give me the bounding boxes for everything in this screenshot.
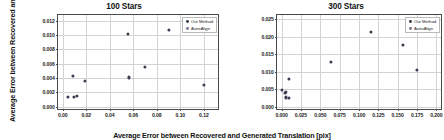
x-tick-label: 0.04 [105, 112, 115, 118]
data-point [330, 61, 333, 64]
data-point [285, 90, 288, 93]
y-gridline [58, 49, 218, 50]
y-tick-label: 0.015 [262, 51, 274, 57]
x-tick-label: 0.10 [176, 112, 186, 118]
y-tick-label: 0.020 [262, 34, 274, 40]
x-gridline [359, 15, 360, 109]
y-tick-label: 0.012 [43, 18, 55, 24]
x-gridline [320, 15, 321, 109]
x-gridline [340, 15, 341, 109]
legend-item[interactable]: Our Method [186, 19, 213, 24]
y-gridline [58, 64, 218, 65]
y-tick-label: 0.010 [43, 32, 55, 38]
legend-marker-icon [186, 27, 189, 30]
chart-title: 300 Stars [248, 2, 444, 11]
x-gridline [157, 15, 158, 109]
x-gridline [86, 15, 87, 109]
x-tick-label: 0.00 [58, 112, 68, 118]
data-point [369, 31, 372, 34]
y-tick [56, 64, 58, 65]
data-point [280, 88, 283, 91]
x-tick-label: 0.025 [295, 112, 307, 118]
legend-marker-icon [409, 27, 412, 30]
x-tick-label: 0.075 [334, 112, 346, 118]
y-tick-label: 0.002 [43, 89, 55, 95]
y-tick [56, 49, 58, 50]
chart-legend: Our MethodAstroAlign [405, 17, 439, 34]
chart-panel-100-stars: 100 Stars 0.0000.0020.0040.0060.0080.010… [26, 0, 222, 128]
y-tick-label: 0.025 [262, 16, 274, 22]
y-tick [275, 54, 277, 55]
x-tick-label: 0.02 [81, 112, 91, 118]
y-tick-label: 0.004 [43, 75, 55, 81]
x-gridline [63, 15, 64, 109]
y-axis-label-container: Average Error between Recovered and Gene… [0, 0, 26, 125]
y-tick [275, 72, 277, 73]
y-tick-label: 0.000 [43, 104, 55, 110]
x-tick-label: 0.150 [392, 112, 404, 118]
plot-area: 0.0000.0020.0040.0060.0080.0100.0120.000… [57, 14, 219, 110]
plot-area: 0.0000.0050.0100.0150.0200.0250.0000.025… [276, 14, 442, 110]
x-tick-label: 0.050 [314, 112, 326, 118]
data-point [202, 83, 205, 86]
legend-item[interactable]: AstroAlign [409, 26, 436, 31]
y-tick [275, 37, 277, 38]
x-axis-label: Average Error between Recovered and Gene… [0, 131, 444, 140]
legend-label: Our Method [191, 19, 213, 24]
x-tick-label: 0.08 [152, 112, 162, 118]
y-tick [275, 107, 277, 108]
data-point [415, 68, 418, 71]
x-gridline [378, 15, 379, 109]
x-gridline [398, 15, 399, 109]
x-tick-label: 0.100 [353, 112, 365, 118]
x-tick-label: 0.000 [276, 112, 288, 118]
legend-marker-icon [186, 20, 189, 23]
y-tick [275, 89, 277, 90]
y-tick [56, 107, 58, 108]
y-tick-label: 0.010 [262, 69, 274, 75]
x-tick-label: 0.06 [129, 112, 139, 118]
scatter-figure: Average Error between Recovered and Gene… [0, 0, 444, 140]
y-axis-label: Average Error between Recovered and Gene… [9, 4, 18, 122]
x-tick-label: 0.125 [372, 112, 384, 118]
legend-item[interactable]: AstroAlign [186, 26, 213, 31]
data-point [76, 95, 79, 98]
y-tick [56, 92, 58, 93]
x-gridline [301, 15, 302, 109]
x-gridline [282, 15, 283, 109]
x-tick-label: 0.200 [430, 112, 442, 118]
data-point [66, 95, 69, 98]
chart-panel-300-stars: 300 Stars 0.0000.0050.0100.0150.0200.025… [248, 0, 444, 128]
x-gridline [180, 15, 181, 109]
data-point [402, 44, 405, 47]
y-tick-label: 0.005 [262, 86, 274, 92]
legend-label: AstroAlign [414, 26, 433, 31]
y-tick-label: 0.008 [43, 46, 55, 52]
y-tick [56, 35, 58, 36]
y-tick-label: 0.000 [262, 104, 274, 110]
legend-marker-icon [409, 20, 412, 23]
y-tick [56, 21, 58, 22]
x-gridline [133, 15, 134, 109]
data-point [72, 74, 75, 77]
y-gridline [58, 78, 218, 79]
legend-label: AstroAlign [191, 26, 210, 31]
y-tick [275, 19, 277, 20]
data-point [167, 29, 170, 32]
y-gridline [58, 107, 218, 108]
x-gridline [110, 15, 111, 109]
legend-label: Our Method [414, 19, 436, 24]
chart-title: 100 Stars [26, 2, 222, 11]
chart-legend: Our MethodAstroAlign [182, 17, 216, 34]
data-point [287, 78, 290, 81]
y-gridline [58, 35, 218, 36]
x-tick-label: 0.175 [411, 112, 423, 118]
x-tick-label: 0.12 [199, 112, 209, 118]
y-tick [56, 78, 58, 79]
data-point [144, 65, 147, 68]
y-gridline [58, 92, 218, 93]
y-tick-label: 0.006 [43, 61, 55, 67]
data-point [287, 97, 290, 100]
legend-item[interactable]: Our Method [409, 19, 436, 24]
